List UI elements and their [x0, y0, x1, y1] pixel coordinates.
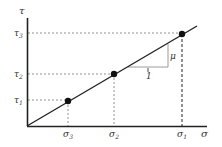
- slope-rise-label: μ: [170, 51, 176, 61]
- sigma2-label: σ2: [109, 129, 119, 140]
- tau3-label: τ3: [14, 28, 23, 39]
- tau1-label: τ1: [14, 95, 23, 106]
- sigma3-label: σ3: [63, 129, 73, 140]
- y-axis-label: τ: [19, 5, 25, 16]
- slope-run-label: 1: [146, 71, 152, 81]
- x-axis-label: σ: [201, 128, 209, 139]
- point-sigma3-tau1: [65, 98, 71, 104]
- point-sigma1-tau3: [179, 31, 185, 37]
- point-sigma2-tau2: [111, 71, 117, 77]
- stress-diagram: τ σ τ3 τ2 τ1 σ3 σ2 σ1 1 μ: [0, 0, 222, 147]
- sigma1-label: σ1: [177, 129, 187, 140]
- tau2-label: τ2: [14, 69, 23, 80]
